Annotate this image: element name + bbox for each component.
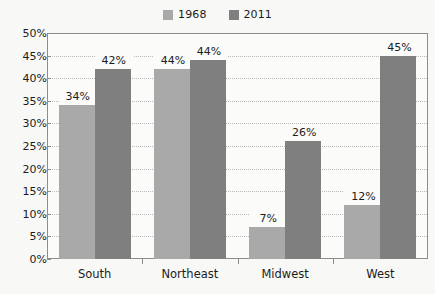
y-tick-label: 45% <box>5 50 47 61</box>
gridline <box>48 123 427 124</box>
y-tick-mark <box>47 33 51 34</box>
legend-swatch-2011 <box>229 10 239 20</box>
y-tick-label: 30% <box>5 118 47 129</box>
y-tick-label: 15% <box>5 186 47 197</box>
y-tick-label: 40% <box>5 73 47 84</box>
y-tick-label: 25% <box>5 141 47 152</box>
y-tick-label: 5% <box>5 231 47 242</box>
y-tick-label: 0% <box>5 254 47 265</box>
plot-area <box>47 33 428 259</box>
x-tick-mark <box>333 259 334 264</box>
y-tick-mark <box>47 101 51 102</box>
y-tick-mark <box>47 123 51 124</box>
y-tick-mark <box>47 146 51 147</box>
gridline <box>48 191 427 192</box>
x-tick-label-west: West <box>366 268 394 281</box>
legend-label-1968: 1968 <box>178 9 206 20</box>
y-axis: 0%5%10%15%20%25%30%35%40%45%50% <box>0 33 47 259</box>
gridline <box>48 56 427 57</box>
y-tick-label: 50% <box>5 28 47 39</box>
y-tick-mark <box>47 191 51 192</box>
gridline <box>48 146 427 147</box>
x-axis: SouthNortheastMidwestWest <box>47 259 428 294</box>
y-tick-label: 35% <box>5 95 47 106</box>
y-tick-label: 20% <box>5 163 47 174</box>
x-tick-label-northeast: Northeast <box>161 268 218 281</box>
x-tick-label-midwest: Midwest <box>261 268 308 281</box>
chart-legend: 1968 2011 <box>0 9 435 20</box>
y-tick-mark <box>47 236 51 237</box>
y-tick-mark <box>47 78 51 79</box>
y-tick-label: 10% <box>5 208 47 219</box>
legend-item-1968: 1968 <box>163 9 206 20</box>
grouped-bar-chart: 1968 2011 0%5%10%15%20%25%30%35%40%45%50… <box>0 0 435 294</box>
y-tick-mark <box>47 169 51 170</box>
legend-item-2011: 2011 <box>229 9 272 20</box>
gridline <box>48 236 427 237</box>
x-tick-label-south: South <box>78 268 111 281</box>
gridline <box>48 101 427 102</box>
gridline <box>48 169 427 170</box>
x-tick-mark <box>142 259 143 264</box>
y-tick-mark <box>47 56 51 57</box>
x-tick-mark <box>238 259 239 264</box>
gridline <box>48 214 427 215</box>
legend-swatch-1968 <box>163 10 173 20</box>
y-tick-mark <box>47 214 51 215</box>
gridline <box>48 78 427 79</box>
legend-label-2011: 2011 <box>244 9 272 20</box>
